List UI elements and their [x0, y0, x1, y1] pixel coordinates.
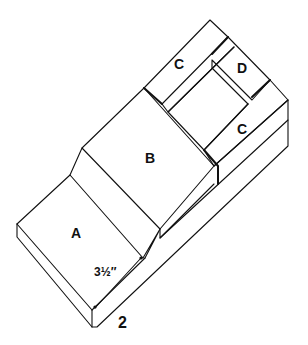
seam-d-c2 [252, 80, 270, 97]
label-part-b: B [145, 151, 155, 165]
label-part-d: D [237, 61, 247, 75]
dimension-arrow-start [93, 305, 96, 308]
label-part-c-front: C [237, 122, 247, 136]
base-slab-outline [17, 100, 288, 327]
figure-number: 2 [118, 315, 127, 331]
label-part-a: A [71, 226, 81, 240]
label-part-c-back: C [174, 57, 184, 71]
dimension-label: 3½″ [94, 266, 116, 278]
part-c-back [144, 20, 234, 112]
right-side-lines [160, 100, 288, 238]
dimension-arrow-end [139, 256, 142, 259]
seam-c-d [212, 37, 228, 54]
seam-b-c2 [204, 150, 218, 184]
isometric-block-drawing [0, 0, 308, 345]
seam-b-c [144, 88, 162, 104]
